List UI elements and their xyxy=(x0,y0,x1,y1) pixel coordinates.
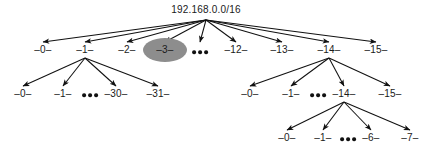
level4-node-2: –6– xyxy=(362,133,379,143)
level3-left-ellipsis-icon xyxy=(82,93,98,97)
level2-node-7: –15– xyxy=(364,45,387,55)
node14sub-edge-3 xyxy=(344,102,410,130)
level4-node-0: –0– xyxy=(278,133,295,143)
level2-ellipsis-icon xyxy=(192,50,208,54)
node1-edge-1 xyxy=(63,58,85,86)
node1-edge-2 xyxy=(85,58,116,86)
level3_right-node-3: –15– xyxy=(378,89,401,99)
node14sub-edge-2 xyxy=(344,102,371,130)
level3_right-node-1: –1– xyxy=(282,89,299,99)
level3_right-node-0: –0– xyxy=(241,89,258,99)
subnet-tree-diagram: 192.168.0.0/16 –0––1––2––3––12––13––14––… xyxy=(0,0,431,152)
node14sub-edge-1 xyxy=(323,102,344,130)
root-edge-8 xyxy=(206,20,376,42)
level3_left-node-3: –31– xyxy=(146,89,169,99)
tree-edges xyxy=(23,20,410,130)
node1-edge-3 xyxy=(85,58,158,86)
level3_left-node-0: –0– xyxy=(14,89,31,99)
root-node-label: 192.168.0.0/16 xyxy=(171,5,241,15)
root-edge-6 xyxy=(206,20,282,42)
level3_left-node-1: –1– xyxy=(54,89,71,99)
root-edge-1 xyxy=(85,20,206,42)
node14sub-edge-0 xyxy=(287,102,344,130)
level2-node-0: –0– xyxy=(34,45,51,55)
node14-edge-1 xyxy=(291,58,329,86)
level3_right-node-2: –14– xyxy=(332,89,355,99)
level2-node-3: –3– xyxy=(156,45,173,55)
node14-edge-2 xyxy=(329,58,344,86)
level4-node-1: –1– xyxy=(314,133,331,143)
root-edge-7 xyxy=(206,20,329,42)
root-edge-4 xyxy=(200,20,206,42)
level2-node-2: –2– xyxy=(118,45,135,55)
root-edge-0 xyxy=(43,20,206,42)
arrow-layer xyxy=(0,0,431,152)
level4-node-3: –7– xyxy=(401,133,418,143)
level2-node-4: –12– xyxy=(224,45,247,55)
level3_left-node-2: –30– xyxy=(104,89,127,99)
level4-ellipsis-icon xyxy=(340,137,356,141)
node14-edge-3 xyxy=(329,58,390,86)
level3-right-ellipsis-icon xyxy=(310,93,326,97)
level2-node-6: –14– xyxy=(317,45,340,55)
node1-edge-0 xyxy=(23,58,85,86)
node14-edge-0 xyxy=(250,58,329,86)
root-edge-5 xyxy=(206,20,236,42)
level2-node-1: –1– xyxy=(76,45,93,55)
level2-node-5: –13– xyxy=(270,45,293,55)
